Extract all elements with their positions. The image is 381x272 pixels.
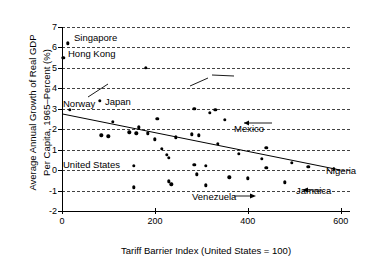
label-norway: Norway [63,99,95,109]
x-axis-title: Tariff Barrier Index (United States = 10… [62,245,350,256]
x-tick-label-600: 600 [333,217,348,226]
y-tick-label-6: 6 [52,43,57,52]
x-axis-line [62,211,350,212]
x-tick-label-200: 200 [147,217,162,226]
label-singapore: Singapore [74,33,117,43]
label-nigeria: Nigeria [326,166,356,176]
y-tick-label-7: 7 [52,23,57,32]
y-tick-label--2: -2 [49,207,57,216]
label-jamaica: Jamaica [296,186,331,196]
y-tick-label-1: 1 [52,145,57,154]
y-tick-label-3: 3 [52,104,57,113]
x-tick-label-400: 400 [240,217,255,226]
y-tick-label-2: 2 [52,125,57,134]
y-tick-label-0: 0 [52,166,57,175]
label-japan: Japan [105,97,131,107]
scatter-chart-figure: -2-101234567 0200400600 Singapore Hong K… [0,0,381,272]
x-tick-label-0: 0 [59,217,64,226]
label-venezuela: Venezuela [192,192,236,202]
label-mexico: Mexico [234,124,264,134]
label-hong-kong: Hong Kong [68,49,116,59]
y-axis-title-line1: Average Annual Growth of Real GDP [27,18,38,208]
y-tick-label-5: 5 [52,63,57,72]
label-united-states: United States [63,160,120,170]
y-axis-title-line2: Per Capita, 1965–Percent (%) [41,18,52,208]
y-tick-label-4: 4 [52,84,57,93]
